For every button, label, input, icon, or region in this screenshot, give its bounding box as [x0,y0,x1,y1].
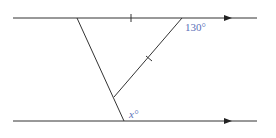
arrow-icon [224,15,232,21]
left-transversal [77,18,124,121]
angle-label-x: x° [129,109,138,120]
arrow-icon [224,118,232,124]
angle-label-130: 130° [185,22,206,33]
top-parallel-line [13,15,257,21]
